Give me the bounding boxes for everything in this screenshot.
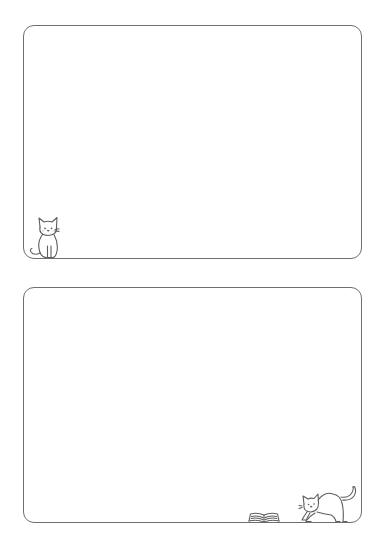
open-book-icon xyxy=(247,510,281,523)
sitting-cat-icon xyxy=(28,214,64,259)
note-frame-top xyxy=(23,25,362,259)
stretching-cat-icon xyxy=(298,485,358,523)
